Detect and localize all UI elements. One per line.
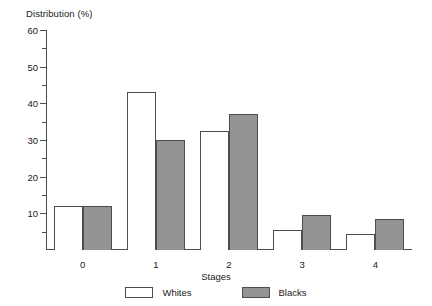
x-tick-label: 4 (373, 259, 378, 270)
y-tick-label: 50 (27, 61, 38, 72)
legend-label: Whites (162, 287, 191, 298)
bar-group: 0 (46, 30, 119, 250)
chart-legend: WhitesBlacks (0, 287, 432, 298)
bar-group: 2 (192, 30, 265, 250)
bar-group: 4 (339, 30, 412, 250)
legend-swatch-whites (125, 287, 153, 298)
x-axis-title: Stages (0, 271, 432, 282)
legend-item-blacks: Blacks (242, 287, 307, 298)
y-tick-label: 20 (27, 171, 38, 182)
x-tick-label: 0 (80, 259, 85, 270)
legend-swatch-blacks (242, 287, 270, 298)
bar-blacks-stage-3 (302, 215, 331, 250)
bar-blacks-stage-2 (229, 114, 258, 250)
bar-whites-stage-4 (346, 234, 375, 251)
bar-groups: 01234 (46, 30, 412, 250)
y-tick-label: 30 (27, 135, 38, 146)
y-tick-label: 10 (27, 208, 38, 219)
x-tick-label: 1 (153, 259, 158, 270)
bar-whites-stage-3 (273, 230, 302, 250)
legend-item-whites: Whites (125, 287, 191, 298)
bar-whites-stage-0 (54, 206, 83, 250)
bar-whites-stage-2 (200, 131, 229, 250)
bar-blacks-stage-0 (83, 206, 112, 250)
x-tick-label: 2 (226, 259, 231, 270)
x-tick-label: 3 (300, 259, 305, 270)
bar-whites-stage-1 (127, 92, 156, 250)
bar-group: 1 (119, 30, 192, 250)
plot-area: 102030405060 01234 (46, 30, 412, 250)
y-axis-title: Distribution (%) (26, 8, 93, 19)
bar-chart-figure: Distribution (%) 102030405060 01234 Stag… (0, 0, 432, 306)
bar-blacks-stage-1 (156, 140, 185, 250)
bar-blacks-stage-4 (375, 219, 404, 250)
y-tick-label: 40 (27, 98, 38, 109)
legend-label: Blacks (279, 287, 307, 298)
y-tick-label: 60 (27, 25, 38, 36)
bar-group: 3 (266, 30, 339, 250)
